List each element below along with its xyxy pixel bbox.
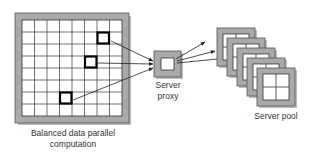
proxy-caption-line-1: Server [148,80,188,91]
left-caption: Balanced data parallel computation [14,128,132,150]
server-pool [217,28,297,108]
proxy-caption-line-2: proxy [148,91,188,102]
data-parallel-grid [15,13,131,125]
left-caption-line-1: Balanced data parallel [14,128,132,139]
pool-server [257,68,297,108]
server-proxy-box [154,51,183,79]
highlighted-cell [60,93,72,104]
left-caption-line-2: computation [14,139,132,150]
proxy-caption: Server proxy [148,80,188,102]
highlighted-cell [85,57,97,68]
pool-caption: Server pool [236,111,310,122]
highlighted-cell [98,33,110,44]
